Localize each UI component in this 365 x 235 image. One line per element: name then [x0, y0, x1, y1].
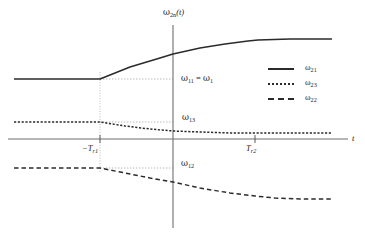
y-axis-label-arg: (t)	[176, 7, 184, 17]
legend-swatch-dashed-icon	[268, 98, 294, 100]
legend-label-w22: ω22	[305, 92, 317, 102]
legend-label-w21-sub: 21	[311, 66, 317, 73]
legend-label-w21: ω21	[305, 62, 317, 72]
y-axis-label-sub: 2n	[170, 11, 176, 18]
legend-label-w22-omega: ω	[305, 92, 311, 102]
x-tick-label-tr2: Tr2	[246, 144, 256, 153]
annotation-w11-omega2: ω	[203, 73, 210, 83]
legend-label-w22-sub: 22	[311, 96, 317, 103]
x-tick-label-tr1-main: −T	[82, 143, 92, 153]
guide-lines	[100, 72, 173, 172]
annotation-w13-omega: ω	[182, 112, 189, 122]
x-tick-label-tr1: −Tr1	[82, 144, 98, 153]
legend-label-w23-omega: ω	[305, 77, 311, 87]
annotation-w13: ω13	[182, 113, 195, 122]
annotation-w12: ω12	[181, 159, 194, 168]
legend-label-w23-sub: 23	[311, 81, 317, 88]
legend-swatch-solid-icon	[268, 68, 294, 70]
annotation-w11-sub2: 1	[210, 77, 213, 84]
annotation-w12-omega: ω	[181, 158, 188, 168]
legend-swatch-dotted-icon	[268, 83, 294, 85]
y-axis-label-omega: ω	[163, 7, 170, 17]
legend-label-w21-omega: ω	[305, 62, 311, 72]
legend-item-w23: ω23	[268, 77, 360, 92]
annotation-w11-omega1: ω	[181, 73, 188, 83]
annotation-w12-sub: 12	[188, 162, 194, 169]
legend-label-w23: ω23	[305, 77, 317, 87]
annotation-w11-eq: =	[194, 73, 203, 83]
legend: ω21 ω23 ω22	[268, 62, 360, 107]
x-axis-label: t	[352, 134, 354, 143]
x-tick-label-tr2-sub: r2	[251, 147, 257, 154]
figure-canvas: ω2n(t) t −Tr1 Tr2 ω11 = ω1 ω13 ω12 ω21 ω…	[0, 0, 365, 235]
legend-item-w21: ω21	[268, 62, 360, 77]
x-tick-label-tr1-sub: r1	[92, 147, 98, 154]
annotation-w11: ω11 = ω1	[181, 74, 213, 83]
axes	[8, 25, 348, 228]
y-axis-label: ω2n(t)	[163, 8, 184, 17]
annotation-w11-sub1: 11	[188, 77, 194, 84]
legend-item-w22: ω22	[268, 92, 360, 107]
annotation-w13-sub: 13	[189, 116, 195, 123]
